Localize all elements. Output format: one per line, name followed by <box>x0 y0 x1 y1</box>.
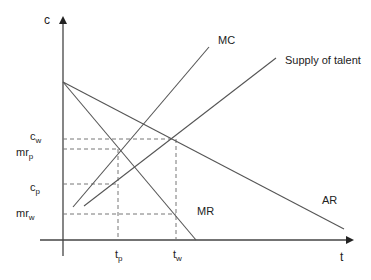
x-tick-tp: tp <box>115 248 123 263</box>
mc-curve <box>73 47 209 207</box>
mr-label: MR <box>197 205 214 217</box>
ar-label: AR <box>322 194 337 206</box>
mc-label: MC <box>218 34 235 46</box>
y-tick-cw: cw <box>30 130 42 145</box>
y-tick-cp: cp <box>30 181 41 196</box>
supply-curve <box>84 58 276 206</box>
guide-lines <box>63 139 176 240</box>
x-tick-tw: tw <box>173 248 182 263</box>
y-tick-mrw: mrw <box>16 207 35 222</box>
supply-label: Supply of talent <box>285 54 361 66</box>
y-tick-mrp: mrp <box>16 146 34 161</box>
y-axis-label: c <box>44 13 50 27</box>
x-axis-label: t <box>340 250 344 264</box>
monopsony-talent-diagram: c t MC Supply of talent MR AR cw mrp cp <box>0 0 371 280</box>
